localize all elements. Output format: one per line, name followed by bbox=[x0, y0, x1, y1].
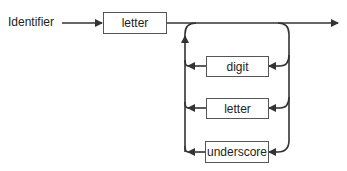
underscore-box: underscore bbox=[205, 141, 269, 163]
identifier-label: Identifier bbox=[8, 15, 54, 29]
loop-letter-box: letter bbox=[206, 98, 269, 119]
letter-box: letter bbox=[103, 12, 167, 34]
digit-box: digit bbox=[206, 56, 269, 77]
